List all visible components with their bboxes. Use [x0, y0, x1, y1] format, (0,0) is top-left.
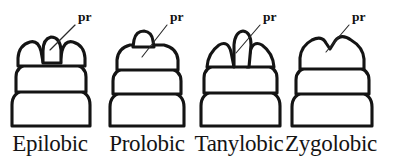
prolobic-label: Prolobic: [109, 131, 185, 156]
zygolobic-pr-callout: pr: [352, 9, 366, 24]
figure-canvas: pr Epilobic pr Prolobic pr: [0, 0, 393, 166]
head-lobe-morphology-figure: pr Epilobic pr Prolobic pr: [0, 0, 393, 166]
epilobic-label: Epilobic: [12, 131, 88, 156]
tanylobic-pr-callout: pr: [263, 9, 277, 24]
epilobic-segment-middle: [16, 64, 86, 92]
panel-epilobic: pr Epilobic: [12, 9, 92, 156]
zygolobic-segment-bottom: [292, 92, 372, 126]
zygolobic-label: Zygolobic: [285, 131, 377, 156]
prolobic-segment-upper: [117, 45, 178, 70]
zygolobic-fused-lobe-pr: [300, 37, 364, 69]
tanylobic-lobe-left: [207, 44, 234, 67]
panel-zygolobic: pr Zygolobic: [285, 9, 377, 156]
tanylobic-segment-bottom: [201, 91, 280, 126]
prolobic-pr-callout: pr: [170, 9, 184, 24]
tanylobic-segment-middle: [204, 65, 277, 93]
tanylobic-label: Tanylobic: [195, 131, 284, 156]
tanylobic-median-lobe-pr: [234, 31, 251, 67]
prolobic-segment-middle: [113, 68, 181, 94]
epilobic-segment-bottom: [12, 90, 90, 126]
epilobic-pr-callout: pr: [78, 9, 92, 24]
panel-tanylobic: pr Tanylobic: [195, 9, 284, 156]
panel-prolobic: pr Prolobic: [109, 9, 185, 156]
zygolobic-segment-middle: [296, 67, 369, 94]
prolobic-median-lobe-pr: [133, 31, 154, 47]
prolobic-segment-bottom: [110, 92, 184, 126]
